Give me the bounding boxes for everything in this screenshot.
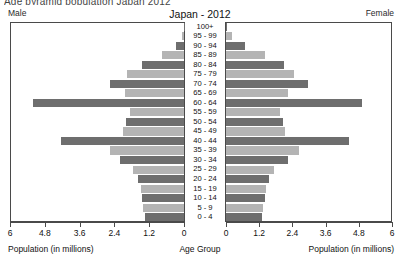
female-bar-25-29 — [226, 166, 274, 174]
axis-tick — [392, 222, 393, 227]
male-bar-85-89 — [162, 51, 184, 59]
table-row: 95 - 99 — [0, 32, 400, 42]
male-bar-45-49 — [123, 127, 184, 135]
male-bar-40-44 — [61, 137, 184, 145]
age-group-label: 10 - 14 — [185, 193, 225, 203]
age-group-label: 0 - 4 — [185, 212, 225, 222]
female-bar-35-39 — [226, 146, 299, 154]
axis-tick-label: 0 — [182, 228, 187, 238]
male-bar-60-64 — [33, 99, 184, 107]
axis-tick-label: 3.6 — [74, 228, 86, 238]
table-row: 100+ — [0, 22, 400, 32]
male-bar-25-29 — [133, 166, 184, 174]
male-bar-35-39 — [110, 146, 184, 154]
age-group-label: 65 - 69 — [185, 88, 225, 98]
age-group-label: 100+ — [185, 22, 225, 32]
chart-title: Japan - 2012 — [0, 8, 400, 20]
axis-tick-label: 4.8 — [353, 228, 365, 238]
male-bar-15-19 — [141, 185, 185, 193]
age-group-label: 35 - 39 — [185, 145, 225, 155]
table-row: 75 - 79 — [0, 70, 400, 80]
age-group-label: 90 - 94 — [185, 41, 225, 51]
female-bar-70-74 — [226, 80, 308, 88]
axis-tick — [184, 222, 185, 227]
age-group-label: 5 - 9 — [185, 203, 225, 213]
axis-tick — [80, 222, 81, 227]
axis-tick-label: 6 — [8, 228, 13, 238]
legend-female-label: Female — [366, 8, 394, 18]
axis-tick-label: 3.6 — [320, 228, 332, 238]
axis-tick — [326, 222, 327, 227]
axis-tick-label: 1.2 — [253, 228, 265, 238]
female-bar-55-59 — [226, 108, 280, 116]
female-bar-0-4 — [226, 213, 262, 221]
age-group-label: 50 - 54 — [185, 117, 225, 127]
clipped-page-heading: Age pyramid population Japan 2012 — [4, 0, 396, 5]
male-bar-0-4 — [145, 213, 184, 221]
age-group-label: 80 - 84 — [185, 60, 225, 70]
table-row: 5 - 9 — [0, 203, 400, 213]
female-bar-50-54 — [226, 118, 283, 126]
female-bar-45-49 — [226, 127, 285, 135]
male-bar-70-74 — [110, 80, 184, 88]
axis-tick-label: 0 — [224, 228, 229, 238]
axis-tick — [10, 222, 11, 227]
age-group-label: 30 - 34 — [185, 155, 225, 165]
female-bar-75-79 — [226, 70, 294, 78]
female-bar-65-69 — [226, 89, 288, 97]
table-row: 20 - 24 — [0, 174, 400, 184]
table-row: 70 - 74 — [0, 79, 400, 89]
male-bar-80-84 — [142, 61, 184, 69]
table-row: 65 - 69 — [0, 89, 400, 99]
female-bar-10-14 — [226, 194, 265, 202]
axis-tick-label: 2.4 — [108, 228, 120, 238]
female-bar-60-64 — [226, 99, 362, 107]
table-row: 90 - 94 — [0, 41, 400, 51]
table-row: 25 - 29 — [0, 165, 400, 175]
axis-tick — [226, 222, 227, 227]
right-axis-caption: Population (in millions) — [308, 244, 394, 254]
table-row: 60 - 64 — [0, 98, 400, 108]
age-group-label: 25 - 29 — [185, 164, 225, 174]
table-row: 35 - 39 — [0, 146, 400, 156]
female-bar-20-24 — [226, 175, 269, 183]
axis-tick — [45, 222, 46, 227]
female-bar-100 — [226, 23, 227, 31]
male-bar-30-34 — [120, 156, 184, 164]
table-row: 85 - 89 — [0, 51, 400, 61]
age-group-label: 15 - 19 — [185, 184, 225, 194]
axis-tick — [259, 222, 260, 227]
table-row: 50 - 54 — [0, 117, 400, 127]
axis-tick-label: 2.4 — [286, 228, 298, 238]
table-row: 45 - 49 — [0, 127, 400, 137]
age-group-label: 40 - 44 — [185, 136, 225, 146]
age-group-label: 70 - 74 — [185, 79, 225, 89]
table-row: 40 - 44 — [0, 136, 400, 146]
male-bar-65-69 — [125, 89, 184, 97]
age-group-label: 45 - 49 — [185, 126, 225, 136]
female-bar-15-19 — [226, 185, 266, 193]
male-bar-10-14 — [142, 194, 184, 202]
axis-tick — [114, 222, 115, 227]
female-bar-5-9 — [226, 204, 263, 212]
axis-tick — [359, 222, 360, 227]
axis-tick-label: 6 — [390, 228, 395, 238]
male-bar-95-99 — [182, 32, 184, 40]
table-row: 10 - 14 — [0, 193, 400, 203]
axis-tick-label: 4.8 — [39, 228, 51, 238]
bar-rows-container: 100+95 - 9990 - 9485 - 8980 - 8475 - 797… — [0, 22, 400, 222]
age-group-label: 85 - 89 — [185, 50, 225, 60]
male-axis-line — [10, 222, 184, 223]
table-row: 0 - 4 — [0, 212, 400, 222]
axis-tick — [149, 222, 150, 227]
table-row: 80 - 84 — [0, 60, 400, 70]
male-bar-90-94 — [176, 42, 184, 50]
table-row: 30 - 34 — [0, 155, 400, 165]
female-bar-80-84 — [226, 61, 284, 69]
age-group-label: 95 - 99 — [185, 31, 225, 41]
axis-tick — [292, 222, 293, 227]
age-group-label: 55 - 59 — [185, 107, 225, 117]
female-bar-30-34 — [226, 156, 288, 164]
male-bar-55-59 — [130, 108, 184, 116]
male-bar-75-79 — [127, 70, 184, 78]
